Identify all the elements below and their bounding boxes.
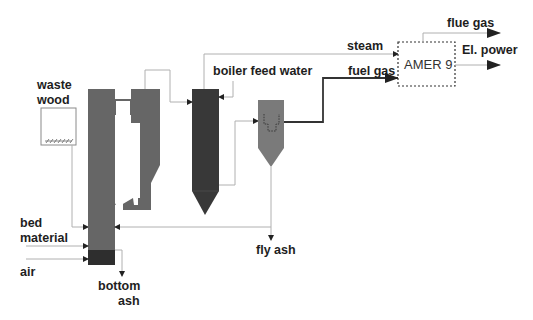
cooled-gas-line [219,121,258,185]
label-ash: ash [118,295,140,308]
label-waste: waste [37,79,72,92]
label-fly-ash: fly ash [256,244,296,257]
label-fuel-gas: fuel gas [348,65,395,78]
fuel-gas-line [284,78,398,122]
process-flow-diagram [0,0,533,320]
label-amer-9: AMER 9 [404,58,452,71]
boiler-feed-water-line [219,81,233,97]
waste-wood-feed-line [72,145,88,227]
label-material: material [20,232,68,245]
bottom-ash-line [115,250,122,276]
label-el-power: El. power [462,44,518,57]
gasifier [88,89,160,265]
label-bottom: bottom [98,280,140,293]
boiler [192,89,219,215]
flue-gas-line [423,33,500,42]
label-flue-gas: flue gas [447,17,494,30]
label-boiler-feed-water: boiler feed water [213,65,312,78]
label-bed: bed [20,217,42,230]
label-steam: steam [347,40,383,53]
label-wood: wood [37,94,70,107]
gas-filter [258,100,284,167]
waste-wood-hopper [41,108,76,145]
label-air: air [20,266,35,279]
